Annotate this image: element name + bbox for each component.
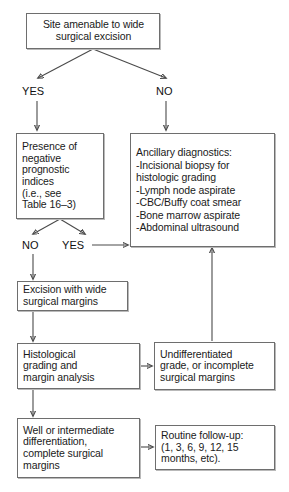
edge-label-top-no: NO [156,85,173,97]
edge-prognostic-to-yes [60,219,85,234]
node-routine-followup[interactable]: Routine follow-up: (1, 3, 6, 9, 12, 15 m… [155,425,275,470]
node-histological-grading[interactable]: Histological grading and margin analysis [17,343,140,389]
node-undifferentiated-grade[interactable]: Undifferentiated grade, or incomplete su… [154,342,275,390]
node-well-intermediate-differentiation[interactable]: Well or intermediate differentiation, co… [17,418,140,478]
edge-label-top-yes: YES [22,85,44,97]
edge-prognostic-to-no [33,219,60,234]
edge-label-mid-yes: YES [62,239,84,251]
edge-site-to-no [93,49,166,78]
node-excision-wide-margins[interactable]: Excision with wide surgical margins [17,281,128,311]
node-negative-prognostic-indices[interactable]: Presence of negative prognostic indices … [16,133,104,219]
flowchart-canvas: Site amenable to wide surgical excision … [0,0,289,492]
edge-site-to-yes [38,49,93,78]
node-ancillary-diagnostics[interactable]: Ancillary diagnostics: -Incisional biops… [130,133,275,247]
node-site-amenable[interactable]: Site amenable to wide surgical excision [26,13,160,49]
edge-label-mid-no: NO [22,239,39,251]
